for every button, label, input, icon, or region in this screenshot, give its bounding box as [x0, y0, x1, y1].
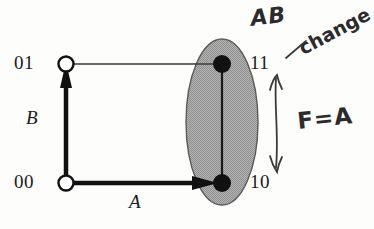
state-label-01: 01 [14, 53, 34, 72]
state-label-10: 10 [250, 172, 270, 191]
vertical-double-arrow-icon [276, 78, 277, 168]
state-label-11: 11 [250, 53, 269, 72]
axis-label-a: A [129, 192, 141, 211]
node-01 [59, 57, 74, 72]
state-label-00: 00 [14, 172, 34, 191]
annotation-ab: AB [249, 2, 288, 31]
node-11 [213, 55, 231, 73]
node-10 [213, 174, 231, 192]
figure-canvas: 01 00 11 10 B A AB change F=A [0, 0, 374, 229]
node-00 [59, 176, 74, 191]
axis-label-b: B [26, 108, 38, 127]
